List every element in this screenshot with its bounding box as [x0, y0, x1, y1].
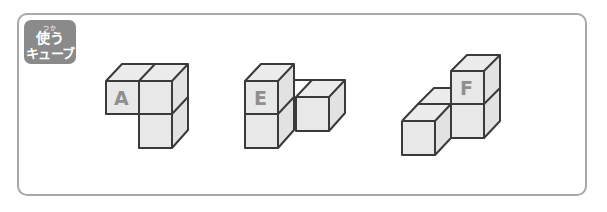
figure-label-f: F — [460, 77, 473, 99]
cube-figure-a: A — [106, 64, 188, 148]
figure-label-e: E — [254, 87, 267, 109]
figure-label-a: A — [114, 87, 129, 109]
cube-figures: A E — [0, 0, 607, 212]
cube-figure-e: E — [245, 64, 345, 148]
cube-figure-f: F — [402, 55, 500, 155]
